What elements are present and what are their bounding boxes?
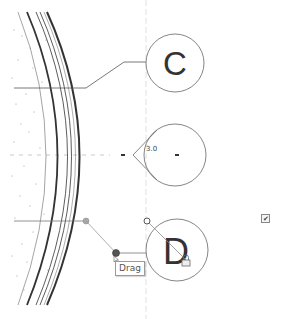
hatch-pattern (11, 29, 48, 290)
wall-arc-thick-1 (27, 12, 58, 305)
wall-arc-thin-2 (40, 12, 72, 305)
centerline-tick-center (175, 154, 179, 156)
drag-tooltip: Drag (115, 261, 145, 276)
angle-dimension-label[interactable]: 3.0 (146, 145, 157, 153)
grid-extent-handle-icon[interactable] (144, 218, 150, 224)
drag-handle-icon[interactable] (113, 250, 120, 257)
angle-leg-lower (133, 155, 157, 180)
visibility-checkbox[interactable]: ✔ (261, 214, 270, 223)
grid-line-d-elbow[interactable] (86, 221, 116, 253)
grid-tag-c[interactable]: C (146, 34, 204, 92)
grid-tag-d[interactable]: D (144, 218, 208, 281)
grid-tag-c-label: C (163, 45, 187, 82)
curved-wall[interactable] (18, 12, 80, 305)
centerline-tick-left (121, 154, 125, 156)
grid-tag-middle[interactable]: 3.0 (121, 124, 206, 186)
grid-line-c-leader[interactable] (14, 62, 146, 88)
wall-arc-thin-3 (44, 12, 76, 305)
